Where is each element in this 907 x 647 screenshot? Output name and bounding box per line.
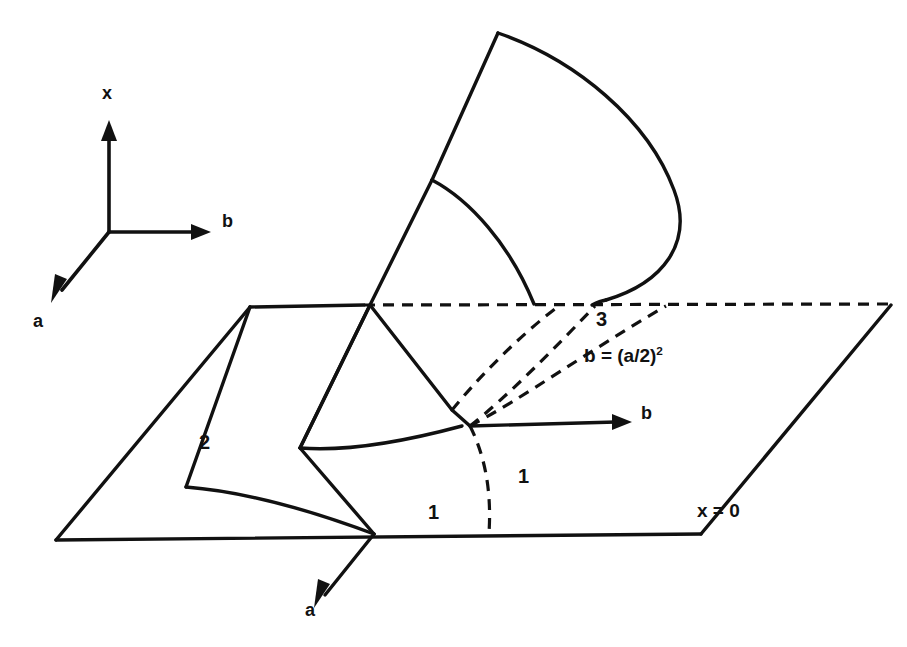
surface-lower-sheet-left-edge (186, 307, 250, 487)
bifurcation-branch-inner-dashed (470, 306, 595, 426)
figure-canvas (0, 0, 907, 647)
fold-curve-equation-label: b = (a/2)2 (584, 345, 663, 365)
surface-grid-curve-lower (186, 487, 374, 534)
surface-seam-to-back-edge (370, 305, 452, 410)
plane-left-edge (56, 307, 250, 540)
surface-outer-right-edge (498, 33, 680, 300)
surface-a-axis-label: a (305, 601, 315, 619)
surface-left-edge-upper (432, 33, 498, 180)
key-b-axis-label: b (222, 212, 233, 230)
region-label-three-roots: 3 (596, 309, 607, 329)
plane-back-edge-hidden (364, 304, 890, 305)
surface-seam-lower (452, 410, 470, 426)
key-a-axis-line (62, 232, 109, 290)
region-label-two-roots: 2 (199, 432, 210, 452)
region-label-one-root-right: 1 (518, 466, 529, 486)
plane-front-edge (56, 534, 701, 540)
key-a-axis-label: a (33, 312, 43, 330)
surface-left-edge-lower (370, 180, 432, 305)
region-label-one-root-left: 1 (428, 502, 439, 522)
key-x-axis-arrowhead (101, 120, 117, 141)
plane-back-edge-visible (250, 305, 364, 307)
surface-grid-curve-middle (300, 426, 462, 449)
surface-a-axis-line (325, 534, 374, 595)
fold-curve-equation-exponent: 2 (656, 344, 663, 357)
fold-curve-equation-base: b = (a/2) (584, 345, 656, 366)
key-x-axis-label: x (102, 84, 112, 102)
bifurcation-branch-front-dashed (470, 426, 490, 533)
plane-equation-label: x = 0 (697, 501, 740, 520)
surface-grid-curve-upper (432, 180, 534, 304)
key-b-axis-arrowhead (191, 224, 211, 240)
surface-b-axis-label: b (641, 404, 652, 422)
surface-b-axis-line (470, 422, 616, 426)
surface-lower-sheet-ridge (300, 305, 370, 448)
surface-b-axis-arrowhead (612, 414, 632, 430)
cusp-catastrophe-figure: x b a b a 2 1 1 3 x = 0 b = (a/2)2 (0, 0, 907, 647)
